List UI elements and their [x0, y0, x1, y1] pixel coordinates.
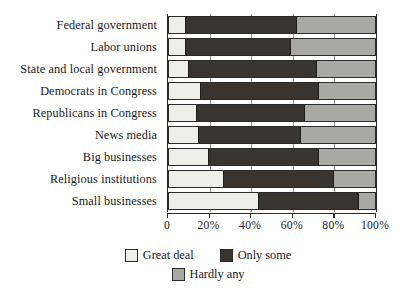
bar-row: [168, 148, 376, 166]
x-axis-line: [167, 213, 376, 214]
legend-item-great-deal: Great deal: [125, 248, 194, 263]
bar-segment-some: [208, 149, 319, 165]
bar-segment-great: [169, 149, 208, 165]
x-tick-label: 40%: [239, 219, 261, 232]
bar-segment-hardly: [301, 127, 375, 143]
bar-row: [168, 126, 376, 144]
plot-area: [167, 14, 377, 212]
x-tick: [333, 213, 334, 218]
x-tick: [250, 213, 251, 218]
bar-segment-hardly: [359, 193, 375, 209]
bar-row: [168, 38, 376, 56]
legend-swatch-only-some: [220, 249, 233, 262]
category-label: Labor unions: [0, 36, 162, 58]
x-tick: [209, 213, 210, 218]
chart-legend: Great deal Only some Hardly any: [0, 246, 416, 284]
category-label: State and local government: [0, 58, 162, 80]
category-label: Republicans in Congress: [0, 102, 162, 124]
category-label: Big businesses: [0, 146, 162, 168]
bar-segment-hardly: [291, 39, 375, 55]
bar-segment-great: [169, 83, 200, 99]
bar-row: [168, 104, 376, 122]
bar-segment-great: [169, 193, 258, 209]
legend-swatch-hardly-any: [172, 268, 185, 281]
x-tick-label: 20%: [198, 219, 220, 232]
category-label: Religious institutions: [0, 168, 162, 190]
x-tick: [292, 213, 293, 218]
x-tick-label: 100%: [361, 219, 389, 232]
legend-item-only-some: Only some: [220, 248, 292, 263]
bar-segment-hardly: [305, 105, 375, 121]
legend-label-great-deal: Great deal: [143, 248, 194, 263]
bar-segment-some: [185, 17, 296, 33]
legend-item-hardly-any: Hardly any: [172, 267, 245, 282]
category-label: Federal government: [0, 14, 162, 36]
category-label: News media: [0, 124, 162, 146]
legend-swatch-great-deal: [125, 249, 138, 262]
category-label: Democrats in Congress: [0, 80, 162, 102]
bar-segment-some: [198, 127, 301, 143]
bar-segment-great: [169, 171, 223, 187]
legend-row-primary: Great deal Only some: [0, 246, 416, 265]
bar-row: [168, 192, 376, 210]
legend-label-hardly-any: Hardly any: [190, 267, 245, 282]
x-tick-label: 80%: [322, 219, 344, 232]
legend-row-secondary: Hardly any: [0, 265, 416, 284]
bar-segment-great: [169, 127, 198, 143]
bar-segment-hardly: [297, 17, 375, 33]
bar-row: [168, 60, 376, 78]
stacked-bar-chart: Federal governmentLabor unionsState and …: [0, 0, 416, 296]
legend-label-only-some: Only some: [238, 248, 292, 263]
bar-segment-some: [185, 39, 290, 55]
bar-row: [168, 16, 376, 34]
bar-row: [168, 82, 376, 100]
bar-segment-hardly: [317, 61, 375, 77]
bar-segment-some: [196, 105, 305, 121]
bar-row: [168, 170, 376, 188]
x-tick: [375, 213, 376, 218]
x-tick: [167, 213, 168, 218]
bar-segment-hardly: [319, 83, 375, 99]
category-label: Small businesses: [0, 190, 162, 212]
category-axis-labels: Federal governmentLabor unionsState and …: [0, 14, 162, 212]
bar-segment-great: [169, 17, 185, 33]
bar-segment-great: [169, 61, 188, 77]
bar-segment-some: [223, 171, 334, 187]
bar-segment-great: [169, 105, 196, 121]
bar-segment-great: [169, 39, 185, 55]
bar-segment-hardly: [334, 171, 375, 187]
bar-segment-some: [188, 61, 318, 77]
bar-segment-some: [258, 193, 359, 209]
bar-segment-some: [200, 83, 319, 99]
x-tick-label: 0: [164, 219, 170, 232]
bar-segment-hardly: [319, 149, 375, 165]
x-tick-label: 60%: [281, 219, 303, 232]
